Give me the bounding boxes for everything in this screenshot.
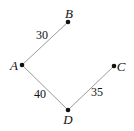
- edge-weight-d-c: 35: [91, 85, 103, 99]
- node-label-a: A: [9, 58, 18, 73]
- graph-diagram: 30 40 35 A B C D: [0, 0, 134, 131]
- node-label-c: C: [117, 59, 126, 74]
- edge-weight-a-d: 40: [34, 87, 46, 101]
- edge-weight-a-b: 30: [36, 28, 48, 42]
- node-label-b: B: [65, 6, 73, 21]
- node-a-dot: [20, 63, 25, 68]
- node-label-d: D: [62, 112, 73, 127]
- edge-weights: 30 40 35: [34, 28, 103, 101]
- node-c-dot: [112, 64, 117, 69]
